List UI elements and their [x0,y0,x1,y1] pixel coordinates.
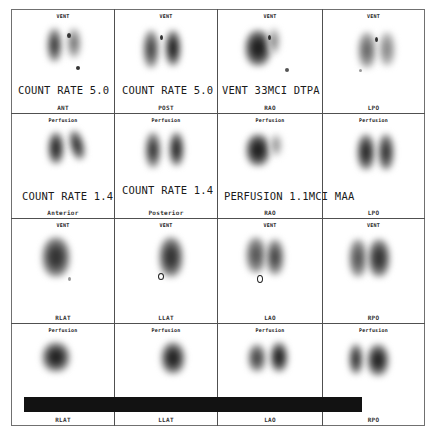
scan-cell-vent-llat: VENT LLAT [115,219,217,323]
scan-cell-vent-rao: VENT RAO [218,10,322,113]
left-lung [145,132,161,168]
scan-cell-vent-lpo: VENT LPO [323,10,424,113]
cell-top-label: VENT [323,13,424,19]
right-lung [246,134,270,166]
cell-bottom-label: Posterior [115,209,217,216]
cell-top-label: VENT [218,222,322,228]
lung [358,32,376,68]
hot-spot [268,35,271,40]
scan-cell-perf-post: Perfusion Posterior [115,114,217,218]
count-rate-label: COUNT RATE 5.0 [18,84,109,96]
count-rate-label: COUNT RATE 1.4 [122,184,213,196]
cell-bottom-label: LLAT [115,314,217,321]
lung [270,342,288,372]
cell-bottom-label: LAO [218,314,322,321]
cell-bottom-label: Anterior [12,209,114,216]
cell-top-label: Perfusion [323,117,424,123]
dose-label: VENT 33MCI DTPA [222,84,320,96]
cell-bottom-label: RAO [218,104,322,111]
lung [357,134,375,170]
hot-spot [359,69,362,72]
cell-bottom-label: POST [115,104,217,111]
cell-top-label: VENT [12,13,114,19]
cell-top-label: Perfusion [323,327,424,333]
cell-top-label: Perfusion [12,117,114,123]
cell-top-label: VENT [218,13,322,19]
cell-top-label: Perfusion [115,327,217,333]
hot-spot [67,33,71,38]
cell-top-label: VENT [323,222,424,228]
right-lung [47,28,62,62]
hot-spot [76,66,80,70]
lung [161,342,185,374]
right-lung [169,132,184,166]
redaction-bar [24,397,362,412]
cell-top-label: VENT [12,222,114,228]
lung [246,237,266,273]
marker-ring [257,275,263,283]
scan-cell-vent-rpo: VENT RPO [323,219,424,323]
left-lung [66,129,87,162]
lung [159,237,183,277]
cell-top-label: Perfusion [115,117,217,123]
lung [42,237,70,277]
lung [248,344,266,372]
cell-top-label: VENT [115,222,217,228]
left-lung [270,134,282,156]
lung [42,342,70,372]
lung [367,344,389,376]
lung [349,239,367,277]
scan-cell-vent-post: VENT POST [115,10,217,113]
marker-ring [158,273,164,280]
hot-spot [68,277,71,281]
cell-bottom-label: RPO [323,314,424,321]
hot-spot [160,35,163,40]
scan-cell-vent-rlat: VENT RLAT [12,219,114,323]
scan-cell-perf-rao: Perfusion RAO [218,114,322,218]
cell-top-label: Perfusion [218,117,322,123]
hot-spot [375,37,378,42]
lung [266,239,284,275]
cell-bottom-label: RLAT [12,314,114,321]
lung [379,32,395,66]
left-lung [268,28,280,54]
right-lung [165,30,181,66]
right-lung [245,30,271,66]
cell-bottom-label: LAO [218,416,322,423]
left-lung [143,30,159,68]
lung [368,239,390,277]
lung [378,134,394,170]
cell-bottom-label: RPO [323,416,424,423]
cell-bottom-label: RLAT [12,416,114,423]
right-lung [48,132,64,164]
cell-top-label: Perfusion [12,327,114,333]
scan-cell-vent-lao: VENT LAO [218,219,322,323]
cell-bottom-label: LPO [323,209,424,216]
cell-bottom-label: LLAT [115,416,217,423]
cell-bottom-label: LPO [323,104,424,111]
cell-top-label: VENT [115,13,217,19]
lung [349,344,363,374]
cell-bottom-label: RAO [218,209,322,216]
scan-cell-perf-ant: Perfusion Anterior [12,114,114,218]
scan-cell-perf-lpo: Perfusion LPO [323,114,424,218]
cell-bottom-label: ANT [12,104,114,111]
count-rate-label: COUNT RATE 1.4 [22,190,113,202]
count-rate-label: COUNT RATE 5.0 [122,84,213,96]
scan-cell-vent-ant: VENT ANT [12,10,114,113]
hot-spot [285,68,289,72]
cell-top-label: Perfusion [218,327,322,333]
